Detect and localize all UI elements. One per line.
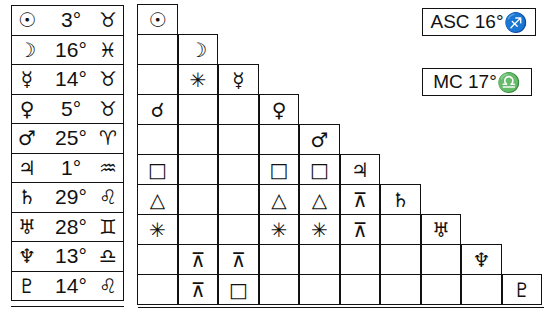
planet-row: ♇ 14° ♌ [12,272,123,302]
degree: 3° [46,6,96,34]
mars-icon: ♂ [15,124,39,152]
mc-label: MC 17° [433,71,497,93]
aspect-cell [137,64,178,95]
gemini-icon: ♊ [96,213,120,241]
aspect-cell [178,214,219,245]
aspect-cell [299,274,340,305]
aspect-cell [137,34,178,65]
uranus-icon: ♅ [15,213,39,241]
aspect-cell [340,244,381,275]
aspect-cell [137,274,178,305]
aquarius-icon: ♒ [96,154,120,182]
sun-icon: ☉ [15,6,39,34]
aspect-cell: ⊼ [218,244,259,275]
aspect-cell [299,244,340,275]
aspect-cell: △ [299,184,340,215]
grid-bottom-rule [138,307,544,308]
planet-row: ♅ 28° ♊ [12,213,123,243]
libra-icon: ♎ [96,242,120,270]
libra-icon: ♎ [497,71,521,94]
planet-row: ♃ 1° ♒ [12,154,123,184]
mars-diagonal-cell: ♂ [299,124,340,155]
aspect-cell [218,214,259,245]
aspect-cell: △ [137,184,178,215]
ascendant-box: ASC 16°♐ [422,8,536,36]
planet-row: ☉ 3° ♉ [12,6,123,36]
sun-diagonal-cell: ☉ [137,4,178,35]
jupiter-icon: ♃ [15,154,39,182]
asc-label: ASC 16° [430,11,503,33]
aspect-cell [178,94,219,125]
aspect-cell [461,274,502,305]
planet-row: ♂ 25° ♈ [12,124,123,154]
planet-row: ♄ 29° ♌ [12,183,123,213]
mercury-diagonal-cell: ☿ [218,64,259,95]
pluto-diagonal-cell: ♇ [502,274,543,305]
aspect-cell [380,274,421,305]
leo-icon: ♌ [96,183,120,211]
moon-diagonal-cell: ☽ [178,34,219,65]
aspect-cell [380,244,421,275]
taurus-icon: ♉ [96,95,120,123]
neptune-diagonal-cell: ♆ [461,244,502,275]
planet-row: ☿ 14° ♉ [12,65,123,95]
degree: 1° [46,154,96,182]
aspect-cell [259,244,300,275]
planet-row: ♆ 13° ♎ [12,242,123,272]
aspect-cell: □ [218,274,259,305]
aspect-cell [218,94,259,125]
degree: 29° [46,183,96,211]
aspect-cell: □ [259,154,300,185]
aries-icon: ♈ [96,124,120,152]
degree: 28° [46,213,96,241]
aspect-cell [380,214,421,245]
uranus-diagonal-cell: ♅ [421,214,462,245]
moon-icon: ☽ [15,36,39,64]
planet-positions-table: ☉ 3° ♉☽ 16° ♓☿ 14° ♉♀ 5° ♉♂ 25° ♈♃ 1° ♒♄… [11,5,124,301]
pisces-icon: ♓ [96,36,120,64]
planet-row: ☽ 16° ♓ [12,36,123,66]
aspect-cell [259,124,300,155]
aspect-cell: ✳ [259,214,300,245]
pluto-icon: ♇ [15,272,39,300]
degree: 13° [46,242,96,270]
aspect-cell: □ [299,154,340,185]
degree: 14° [46,272,96,300]
taurus-icon: ♉ [96,6,120,34]
aspect-cell [218,154,259,185]
planet-row: ♀ 5° ♉ [12,95,123,125]
degree: 25° [46,124,96,152]
aspect-cell [178,184,219,215]
saturn-icon: ♄ [15,183,39,211]
neptune-icon: ♆ [15,242,39,270]
venus-icon: ♀ [15,95,39,123]
leo-icon: ♌ [96,272,120,300]
aspect-cell [178,124,219,155]
degree: 16° [46,36,96,64]
aspect-cell: ✳ [299,214,340,245]
mercury-icon: ☿ [15,65,39,93]
saturn-diagonal-cell: ♄ [380,184,421,215]
aspect-cell: □ [137,154,178,185]
jupiter-diagonal-cell: ♃ [340,154,381,185]
venus-diagonal-cell: ♀ [259,94,300,125]
aspect-cell [421,274,462,305]
taurus-icon: ♉ [96,65,120,93]
degree: 14° [46,65,96,93]
aspect-cell [218,124,259,155]
degree: 5° [46,95,96,123]
aspect-cell [137,244,178,275]
aspect-cell [178,154,219,185]
midheaven-box: MC 17°♎ [422,68,532,96]
aspect-cell: ✳ [137,214,178,245]
aspect-cell [421,244,462,275]
aspect-cell: ☌ [137,94,178,125]
aspect-cell [340,274,381,305]
sagittarius-icon: ♐ [504,11,528,34]
aspect-cell: ✳ [178,64,219,95]
table-bottom-rule [11,306,124,307]
aspect-cell: ⊼ [340,214,381,245]
aspect-cell [259,274,300,305]
aspect-cell: ⊼ [340,184,381,215]
aspect-cell: ⊼ [178,244,219,275]
